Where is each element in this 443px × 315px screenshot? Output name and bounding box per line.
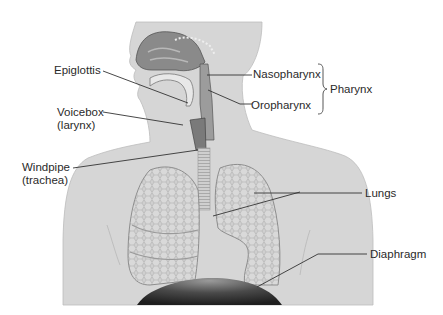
label-windpipe-name: Windpipe [22, 161, 70, 174]
respiratory-system-illustration [0, 0, 443, 315]
label-voicebox-name: Voicebox [57, 106, 104, 119]
label-windpipe: Windpipe (trachea) [22, 161, 70, 187]
label-nasopharynx: Nasopharynx [253, 68, 321, 81]
label-voicebox: Voicebox (larynx) [57, 106, 104, 132]
label-oropharynx: Oropharynx [251, 99, 311, 112]
label-diaphragm: Diaphragm [370, 248, 426, 261]
label-lungs: Lungs [365, 187, 396, 200]
trachea [198, 148, 210, 210]
body-silhouette [63, 22, 373, 305]
label-epiglottis: Epiglottis [54, 64, 101, 77]
label-voicebox-term: (larynx) [57, 119, 104, 132]
label-pharynx: Pharynx [330, 83, 372, 96]
label-windpipe-term: (trachea) [22, 174, 70, 187]
